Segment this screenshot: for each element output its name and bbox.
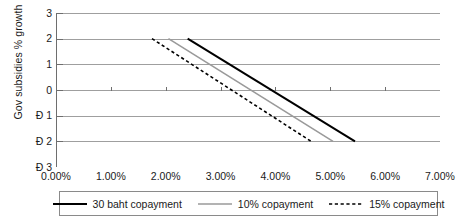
x-axis-tick-labels: 0.00%1.00%2.00%3.00%4.00%5.00%6.00%7.00%	[56, 170, 440, 186]
chart-legend: 30 baht copayment10% copayment15% copaym…	[59, 191, 438, 216]
plot-svg	[56, 13, 440, 167]
x-tick-label: 5.00%	[300, 170, 360, 183]
y-tick-label: 2	[6, 33, 52, 44]
legend-label: 10% copayment	[238, 198, 313, 210]
y-tick-label: 0	[6, 85, 52, 96]
legend-item[interactable]: 15% copayment	[329, 198, 444, 210]
y-tick-label: 1	[6, 59, 52, 70]
plot-area	[56, 13, 440, 167]
x-tick-label: 1.00%	[81, 170, 141, 183]
y-tick-label: Ð 2	[6, 136, 52, 147]
legend-swatch-icon	[53, 199, 87, 209]
legend-label: 30 baht copayment	[93, 198, 182, 210]
legend-label: 15% copayment	[369, 198, 444, 210]
y-axis-tick-labels: 3210Ð 1Ð 2Ð 3	[0, 13, 52, 167]
legend-swatch-icon	[198, 199, 232, 209]
legend-swatch-icon	[329, 199, 363, 209]
x-tick-label: 7.00%	[410, 170, 460, 183]
legend-item[interactable]: 10% copayment	[198, 198, 313, 210]
x-tick-label: 6.00%	[355, 170, 415, 183]
x-tick-label: 3.00%	[191, 170, 251, 183]
legend-item[interactable]: 30 baht copayment	[53, 198, 182, 210]
x-tick-label: 4.00%	[245, 170, 305, 183]
y-tick-label: Ð 1	[6, 110, 52, 121]
y-tick-label: 3	[6, 8, 52, 19]
x-tick-label: 2.00%	[136, 170, 196, 183]
x-tick-label: 0.00%	[26, 170, 86, 183]
